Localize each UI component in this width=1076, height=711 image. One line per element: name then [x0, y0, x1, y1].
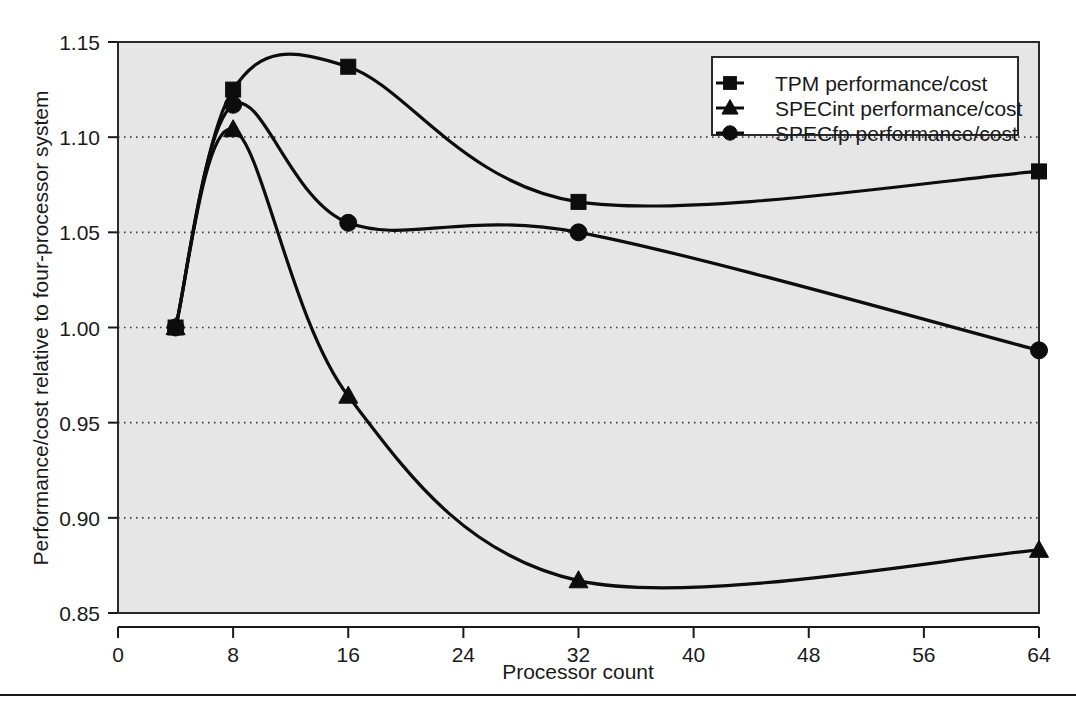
x-tick-label: 56 [912, 643, 935, 666]
y-tick-label: 0.95 [59, 412, 100, 435]
y-tick-label: 1.15 [59, 31, 100, 54]
x-axis-title: Processor count [502, 660, 654, 683]
data-marker-square [571, 194, 586, 209]
y-tick-label: 0.85 [59, 602, 100, 625]
data-marker-square [226, 82, 241, 97]
data-marker-square [1032, 164, 1047, 179]
y-tick-label: 1.10 [59, 126, 100, 149]
data-marker-circle [167, 319, 184, 336]
chart-legend: TPM performance/costSPECint performance/… [712, 57, 1023, 145]
data-marker-square [341, 59, 356, 74]
performance-cost-line-chart: 0.850.900.951.001.051.101.15 08162432404… [0, 0, 1076, 711]
data-marker-square [724, 77, 737, 90]
x-tick-label: 64 [1027, 643, 1051, 666]
data-marker-circle [723, 126, 737, 140]
legend-item-label: TPM performance/cost [775, 72, 988, 95]
x-tick-label: 16 [337, 643, 360, 666]
data-marker-circle [340, 214, 357, 231]
figure-container: 0.850.900.951.001.051.101.15 08162432404… [0, 0, 1076, 711]
data-marker-circle [225, 96, 242, 113]
y-tick-label: 0.90 [59, 507, 100, 530]
y-tick-label: 1.05 [59, 221, 100, 244]
x-tick-label: 0 [112, 643, 124, 666]
x-tick-label: 24 [452, 643, 476, 666]
x-tick-label: 48 [797, 643, 820, 666]
data-marker-circle [570, 224, 587, 241]
y-tick-label: 1.00 [59, 317, 100, 340]
legend-item-label: SPECint performance/cost [775, 97, 1023, 120]
y-axis-title: Performance/cost relative to four-proces… [29, 90, 52, 565]
data-marker-circle [1031, 342, 1048, 359]
legend-item-label: SPECfp performance/cost [775, 122, 1018, 145]
x-tick-label: 8 [227, 643, 239, 666]
x-tick-label: 40 [682, 643, 705, 666]
